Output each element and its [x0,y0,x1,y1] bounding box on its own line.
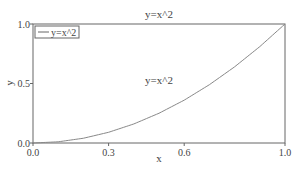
x-axis-label: x [156,152,162,164]
x-tick-label: 0.6 [178,147,191,158]
x-tick-label: 1.0 [279,147,292,158]
x-tick-label: 0.3 [102,147,115,158]
y-axis-label: y [3,80,15,86]
chart: y=x^2 y=x^2 0.00.30.61.0 0.00.51.0 x y y… [0,0,300,174]
legend: y=x^2 [35,26,79,38]
x-tick-label: 0.0 [27,147,40,158]
curve-annotation: y=x^2 [145,74,173,86]
y-tick-label: 0.5 [18,78,31,89]
y-tick-label: 1.0 [18,19,31,30]
legend-label: y=x^2 [51,27,76,38]
chart-title: y=x^2 [145,8,173,20]
y-axis: 0.00.51.0 [18,19,34,149]
plot-area: y=x^2 [33,24,285,143]
y-tick-label: 0.0 [18,138,31,149]
